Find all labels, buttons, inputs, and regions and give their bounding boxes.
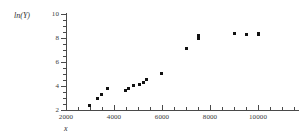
y-tick-minor: [63, 26, 67, 27]
y-tick-minor: [63, 80, 67, 81]
scatter-plot: 246810200040006000800010000 ln(Y) x: [0, 0, 305, 138]
x-tick-minor: [270, 107, 271, 111]
x-tick-minor: [282, 107, 283, 111]
data-point: [245, 33, 248, 36]
data-point: [160, 72, 163, 75]
x-tick-major: [114, 105, 115, 111]
y-tick-label: 4: [37, 82, 59, 90]
data-point: [132, 84, 135, 87]
x-tick-minor: [102, 107, 103, 111]
y-tick-major: [61, 62, 67, 63]
y-tick-minor: [63, 50, 67, 51]
y-tick-minor: [63, 44, 67, 45]
data-point: [100, 93, 103, 96]
x-tick-major: [66, 105, 67, 111]
data-point: [185, 47, 188, 50]
x-tick-minor: [78, 107, 79, 111]
x-tick-major: [162, 105, 163, 111]
y-tick-label: 6: [37, 58, 59, 66]
data-point: [257, 32, 260, 35]
x-tick-minor: [234, 107, 235, 111]
y-tick-minor: [63, 74, 67, 75]
x-tick-label: 6000: [142, 113, 182, 121]
y-tick-minor: [63, 92, 67, 93]
y-tick-label: 8: [37, 34, 59, 42]
y-tick-minor: [63, 56, 67, 57]
x-tick-minor: [138, 107, 139, 111]
y-tick-major: [61, 86, 67, 87]
data-point: [127, 87, 130, 90]
data-point: [142, 81, 145, 84]
x-axis-line: [66, 110, 299, 111]
y-axis-title: ln(Y): [14, 11, 30, 20]
x-tick-minor: [150, 107, 151, 111]
y-tick-major: [61, 14, 67, 15]
y-tick-minor: [63, 68, 67, 69]
x-tick-minor: [198, 107, 199, 111]
y-tick-minor: [63, 32, 67, 33]
chart-screenshot: 246810200040006000800010000 ln(Y) x: [0, 0, 305, 138]
data-point: [233, 32, 236, 35]
x-tick-minor: [126, 107, 127, 111]
y-tick-major: [61, 38, 67, 39]
x-tick-label: 8000: [190, 113, 230, 121]
x-tick-label: 2000: [46, 113, 86, 121]
x-tick-major: [258, 105, 259, 111]
y-tick-minor: [63, 20, 67, 21]
x-tick-minor: [222, 107, 223, 111]
x-tick-label: 10000: [238, 113, 278, 121]
x-tick-minor: [90, 107, 91, 111]
x-tick-minor: [246, 107, 247, 111]
x-tick-major: [210, 105, 211, 111]
data-point: [145, 78, 148, 81]
x-tick-minor: [294, 107, 295, 111]
data-point: [106, 87, 109, 90]
x-tick-minor: [174, 107, 175, 111]
data-point: [96, 97, 99, 100]
x-tick-minor: [186, 107, 187, 111]
y-tick-minor: [63, 98, 67, 99]
data-point: [197, 34, 200, 37]
y-tick-label: 10: [37, 10, 59, 18]
x-tick-label: 4000: [94, 113, 134, 121]
data-point: [88, 104, 91, 107]
x-axis-title: x: [64, 124, 68, 133]
